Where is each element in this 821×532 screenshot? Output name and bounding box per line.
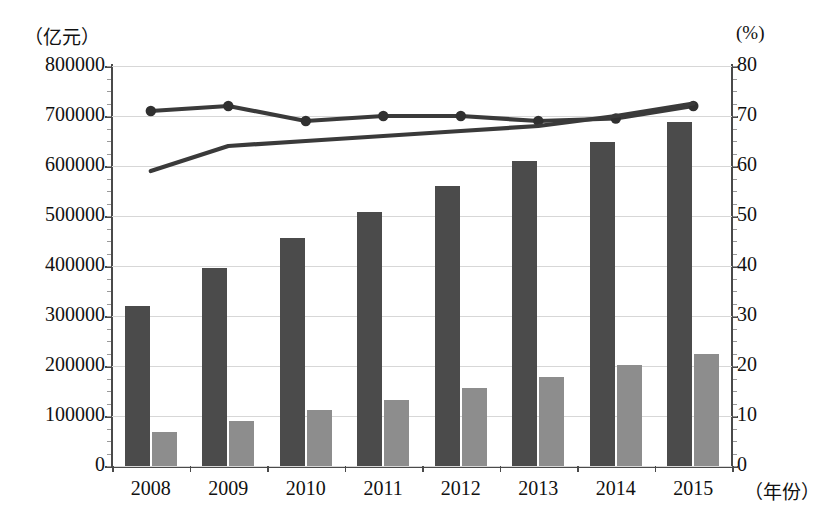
right-axis-tickmark [733, 404, 737, 405]
axis-tickmarks [0, 0, 821, 532]
left-axis-tickmark [107, 229, 111, 230]
right-axis-tickmark [733, 466, 737, 467]
left-axis-tickmark [107, 354, 111, 355]
left-axis-tickmark [107, 66, 111, 67]
right-axis-tickmark [733, 304, 737, 305]
x-axis-tickmark [500, 466, 502, 472]
right-axis-tickmark [733, 291, 737, 292]
right-axis-tickmark [733, 104, 737, 105]
left-axis-tickmark [107, 91, 111, 92]
right-axis-tickmark [733, 66, 737, 67]
left-axis-tickmark [107, 341, 111, 342]
left-axis-tickmark [107, 404, 111, 405]
left-axis-tickmark [107, 329, 111, 330]
left-axis-tickmark [107, 104, 111, 105]
left-axis-tickmark [107, 441, 111, 442]
left-axis-tickmark [107, 304, 111, 305]
left-axis-tickmark [107, 166, 111, 167]
left-axis-tickmark [107, 179, 111, 180]
right-axis-tickmark [733, 129, 737, 130]
left-axis-tickmark [107, 454, 111, 455]
left-axis-tickmark [107, 241, 111, 242]
right-axis-tickmark [733, 91, 737, 92]
left-axis-tickmark [107, 216, 111, 217]
left-axis-tickmark [107, 291, 111, 292]
left-axis-tickmark [107, 191, 111, 192]
right-axis-tickmark [733, 279, 737, 280]
chart-container: （亿元） (%) （年份） 01000002000003000004000005… [0, 0, 821, 532]
right-axis-tickmark [733, 141, 737, 142]
left-axis-tickmark [107, 279, 111, 280]
x-axis-tickmark [112, 466, 114, 472]
x-axis-tickmark [655, 466, 657, 472]
right-axis-tickmark [733, 341, 737, 342]
left-axis-tickmark [107, 466, 111, 467]
right-axis-tickmark [733, 179, 737, 180]
right-axis-tickmark [733, 79, 737, 80]
left-axis-tickmark [107, 266, 111, 267]
left-axis-tickmark [107, 254, 111, 255]
left-axis-tickmark [107, 116, 111, 117]
x-axis-tickmark [190, 466, 192, 472]
right-axis-tickmark [733, 266, 737, 267]
right-axis-tickmark [733, 204, 737, 205]
right-axis-tickmark [733, 379, 737, 380]
x-axis-tickmark [422, 466, 424, 472]
right-axis-tickmark [733, 154, 737, 155]
right-axis-tickmark [733, 116, 737, 117]
right-axis-tickmark [733, 329, 737, 330]
left-axis-tickmark [107, 416, 111, 417]
left-axis-tickmark [107, 316, 111, 317]
right-axis-tickmark [733, 366, 737, 367]
right-axis-tickmark [733, 441, 737, 442]
left-axis-tickmark [107, 391, 111, 392]
left-axis-tickmark [107, 129, 111, 130]
right-axis-tickmark [733, 391, 737, 392]
left-axis-tickmark [107, 79, 111, 80]
left-axis-tickmark [107, 141, 111, 142]
right-axis-tickmark [733, 429, 737, 430]
right-axis-tickmark [733, 354, 737, 355]
right-axis-tickmark [733, 254, 737, 255]
right-axis-tickmark [733, 166, 737, 167]
left-axis-tickmark [107, 154, 111, 155]
right-axis-tickmark [733, 454, 737, 455]
right-axis-tickmark [733, 241, 737, 242]
right-axis-tickmark [733, 191, 737, 192]
right-axis-tickmark [733, 416, 737, 417]
left-axis-tickmark [107, 204, 111, 205]
x-axis-tickmark [345, 466, 347, 472]
right-axis-tickmark [733, 316, 737, 317]
left-axis-tickmark [107, 379, 111, 380]
left-axis-tickmark [107, 366, 111, 367]
x-axis-tickmark [732, 466, 734, 472]
right-axis-tickmark [733, 216, 737, 217]
x-axis-tickmark [577, 466, 579, 472]
x-axis-tickmark [267, 466, 269, 472]
right-axis-tickmark [733, 229, 737, 230]
left-axis-tickmark [107, 429, 111, 430]
